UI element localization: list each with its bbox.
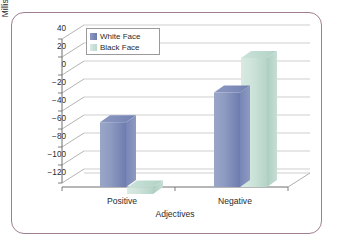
figure-container: Milliseconds (difference) 40 20 0 −20 −4… — [0, 0, 340, 252]
x-tick-negative: Negative — [197, 196, 273, 206]
legend-entry-black-face: Black Face — [90, 42, 156, 53]
legend-swatch-white-face — [90, 33, 97, 40]
legend-swatch-black-face — [90, 44, 97, 51]
y-axis-ticks — [58, 39, 62, 183]
bar-positive-white-face — [100, 115, 136, 187]
x-axis-title: Adjectives — [115, 209, 235, 219]
chart-legend: White Face Black Face — [86, 28, 160, 55]
legend-label-white-face: White Face — [100, 32, 140, 41]
bar-negative-white-face — [214, 85, 250, 187]
legend-entry-white-face: White Face — [90, 31, 156, 42]
x-tick-positive: Positive — [84, 196, 160, 206]
axis-depth-wall — [62, 25, 84, 183]
legend-label-black-face: Black Face — [100, 43, 140, 52]
x-axis-ticks — [62, 187, 288, 191]
